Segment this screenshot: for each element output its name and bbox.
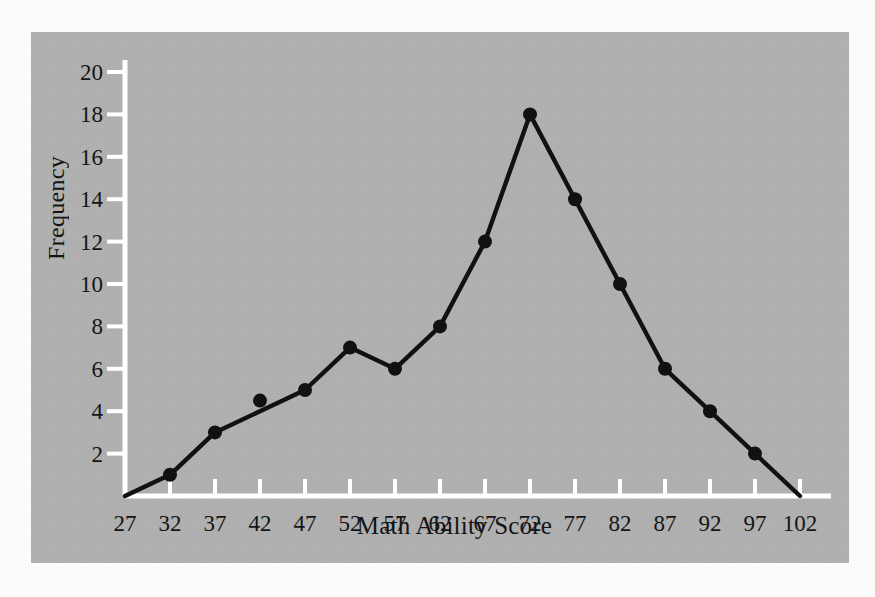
data-point-marker xyxy=(163,468,177,482)
y-axis-tick-label: 4 xyxy=(41,400,103,423)
data-point-marker xyxy=(478,235,492,249)
y-axis-tick-label: 2 xyxy=(41,442,103,465)
data-point-marker xyxy=(298,383,312,397)
y-axis-title: Frequency xyxy=(43,156,69,260)
y-axis-tick-label: 10 xyxy=(41,273,103,296)
x-axis-title: Math Ability Score xyxy=(0,512,875,540)
data-point-marker xyxy=(343,341,357,355)
x-axis-title-text: Math Ability Score xyxy=(357,512,552,540)
data-point-marker xyxy=(523,107,537,121)
data-point-markers xyxy=(163,107,762,481)
data-line-series xyxy=(125,114,800,496)
chart-plot-panel: 2468101214161820 27323742475257626772778… xyxy=(31,32,849,563)
data-point-marker xyxy=(568,192,582,206)
data-point-marker xyxy=(613,277,627,291)
data-point-marker xyxy=(208,425,222,439)
y-axis-tick-label: 18 xyxy=(41,103,103,126)
y-axis-tick-label: 8 xyxy=(41,315,103,338)
data-point-marker xyxy=(253,394,267,408)
y-axis-tick-label: 6 xyxy=(41,357,103,380)
axis-lines xyxy=(125,60,831,496)
data-point-marker xyxy=(703,404,717,418)
data-point-marker xyxy=(433,319,447,333)
data-point-marker xyxy=(658,362,672,376)
chart-figure: 2468101214161820 27323742475257626772778… xyxy=(0,0,875,597)
data-point-marker xyxy=(388,362,402,376)
y-axis-ticks xyxy=(107,72,124,454)
frequency-polygon-svg xyxy=(31,32,849,563)
data-point-marker xyxy=(748,447,762,461)
y-axis-tick-label: 20 xyxy=(41,61,103,84)
